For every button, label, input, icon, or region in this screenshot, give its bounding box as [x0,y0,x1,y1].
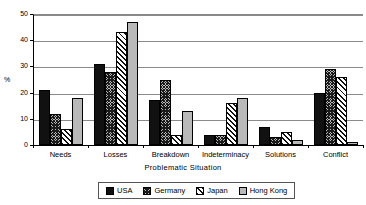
bar [314,93,325,145]
bar [215,135,226,145]
legend-label: Hong Kong [250,186,288,195]
legend-label: USA [117,186,132,195]
y-tick-label: 0 [8,141,28,149]
bar [94,64,105,145]
legend-swatch-icon [143,187,151,195]
x-tick-mark [308,145,309,148]
x-axis-labels: NeedsLossesBreakdownIndeterminacySolutio… [33,150,363,159]
bar [270,137,281,145]
bar [237,98,248,145]
y-tick-label: 30 [8,62,28,70]
bar [105,72,116,145]
bar [325,69,336,145]
x-tick-label: Indeterminacy [198,150,253,159]
legend-item[interactable]: Hong Kong [239,186,288,195]
legend-swatch-icon [239,187,247,195]
legend-label: Germany [154,186,185,195]
x-tick-label: Losses [88,150,143,159]
x-tick-label: Conflict [308,150,363,159]
legend-item[interactable]: Japan [196,186,227,195]
bar [292,140,303,145]
bar [61,129,72,145]
x-tick-label: Solutions [253,150,308,159]
bar-group [149,14,193,145]
bar-group [314,14,358,145]
bar [171,135,182,145]
bar [182,111,193,145]
bars-layer [33,14,363,145]
y-tick-label: 50 [8,10,28,18]
y-tick-label: 20 [8,89,28,97]
legend-item[interactable]: Germany [143,186,185,195]
bar [259,127,270,145]
bar [347,142,358,145]
x-axis-title: Problematic Situation [0,163,366,172]
bar-group [94,14,138,145]
x-tick-mark [253,145,254,148]
bar [39,90,50,145]
x-tick-mark [33,145,34,148]
x-tick-label: Needs [33,150,88,159]
bar [149,100,160,145]
bar-group [39,14,83,145]
bar-chart: % 01020304050 NeedsLossesBreakdownIndete… [0,0,366,205]
x-tick-label: Breakdown [143,150,198,159]
x-tick-mark [363,145,364,148]
bar [336,77,347,145]
legend-label: Japan [207,186,227,195]
bar [226,103,237,145]
y-tick-label: 40 [8,36,28,44]
x-tick-mark [198,145,199,148]
chart-legend: USAGermanyJapanHong Kong [98,182,295,199]
legend-swatch-icon [106,187,114,195]
x-tick-mark [88,145,89,148]
legend-item[interactable]: USA [106,186,132,195]
bar [127,22,138,145]
x-tick-mark [143,145,144,148]
bar [160,80,171,146]
bar-group [259,14,303,145]
bar [116,32,127,145]
bar [281,132,292,145]
bar [204,135,215,145]
legend-swatch-icon [196,187,204,195]
bar [72,98,83,145]
bar-group [204,14,248,145]
y-axis-title: % [4,76,10,84]
y-tick-label: 10 [8,115,28,123]
bar [50,114,61,145]
